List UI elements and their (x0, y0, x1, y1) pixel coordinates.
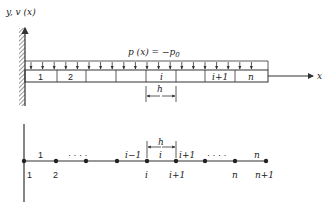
node-label-1: 1 (27, 170, 32, 180)
beam (25, 70, 268, 82)
bottom-element-1: 1 (38, 150, 43, 160)
element-label-n: n (248, 72, 254, 82)
element-label-2: 2 (68, 72, 73, 82)
node-dot (145, 159, 149, 163)
node-label-n-plus-1: n+1 (255, 170, 274, 180)
node-label-i-plus-1: i+1 (169, 170, 185, 180)
fixed-wall (19, 28, 25, 106)
bottom-element-i: i (159, 150, 162, 160)
node-dot (54, 159, 58, 163)
h-label-top: h (157, 84, 163, 94)
node-label-2: 2 (53, 170, 58, 180)
element-label-1: 1 (38, 72, 43, 82)
node-dot (22, 159, 26, 163)
element-label-i: i (160, 72, 163, 82)
node-dot (264, 159, 268, 163)
bottom-element-i-plus-1: i+1 (179, 150, 195, 160)
bottom-element-i-minus-1: i−1 (125, 150, 141, 160)
node-dot (233, 159, 237, 163)
node-dot (174, 159, 178, 163)
bottom-dots-right: · · · · (207, 150, 227, 160)
x-axis-label: x (317, 71, 322, 81)
y-axis-label: y, v (x) (5, 7, 36, 17)
bottom-element-n: n (254, 150, 260, 160)
distributed-load (25, 61, 268, 70)
beam-discretization-diagram: y, v (x) p (x) = −p0 x 1 2 i i+1 n h h 1… (0, 0, 325, 214)
bottom-dots-left: · · · · (68, 150, 88, 160)
h-label-bottom: h (158, 137, 164, 147)
node-label-i: i (145, 170, 148, 180)
element-label-i-plus-1: i+1 (212, 72, 228, 82)
load-label: p (x) = −p0 (128, 47, 180, 59)
node-dot (115, 159, 119, 163)
node-label-n: n (232, 170, 238, 180)
